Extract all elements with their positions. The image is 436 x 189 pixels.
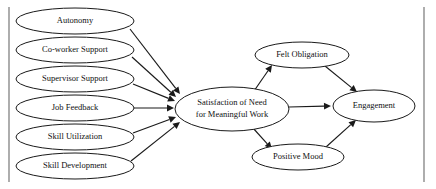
skill-utilization-label: Skill Utilization bbox=[48, 131, 103, 141]
node-coworker-support[interactable]: Co-worker Support bbox=[16, 37, 134, 63]
job-feedback-label: Job Feedback bbox=[52, 102, 99, 112]
skill-development-label: Skill Development bbox=[43, 160, 108, 170]
node-job-feedback[interactable]: Job Feedback bbox=[16, 95, 134, 121]
edge-line bbox=[130, 29, 176, 88]
edge-felt-obligation-to-engagement bbox=[325, 66, 357, 92]
arrow-head-icon bbox=[167, 105, 174, 112]
edge-satisfaction-to-positive-mood bbox=[253, 128, 272, 149]
edge-skill-development-to-satisfaction bbox=[131, 122, 180, 161]
satisfaction-of-need-label-line2: for Meaningful Work bbox=[196, 109, 269, 119]
satisfaction-of-need-label-line1: Satisfaction of Need bbox=[197, 97, 267, 107]
node-skill-development[interactable]: Skill Development bbox=[16, 153, 134, 179]
node-autonomy[interactable]: Autonomy bbox=[16, 8, 134, 34]
supervisor-support-label: Supervisor Support bbox=[42, 73, 109, 83]
arrow-head-icon bbox=[324, 103, 331, 110]
edge-satisfaction-to-engagement bbox=[289, 103, 331, 110]
positive-mood-label: Positive Mood bbox=[273, 151, 324, 161]
edge-line bbox=[133, 119, 169, 133]
edge-line bbox=[326, 125, 351, 147]
node-satisfaction-of-need[interactable]: Satisfaction of Need for Meaningful Work bbox=[175, 87, 289, 131]
node-positive-mood[interactable]: Positive Mood bbox=[252, 144, 344, 170]
antecedent-nodes-layer: AutonomyCo-worker SupportSupervisor Supp… bbox=[16, 8, 134, 179]
edge-satisfaction-to-felt-obligation bbox=[254, 65, 272, 91]
path-model-diagram: AutonomyCo-worker SupportSupervisor Supp… bbox=[0, 0, 436, 189]
edge-line bbox=[325, 66, 352, 88]
coworker-support-label: Co-worker Support bbox=[42, 44, 109, 54]
engagement-label: Engagement bbox=[353, 100, 396, 110]
edge-line bbox=[253, 128, 267, 144]
model-canvas: AutonomyCo-worker SupportSupervisor Supp… bbox=[0, 0, 436, 189]
edge-coworker-to-satisfaction bbox=[132, 57, 176, 97]
arrow-head-icon bbox=[349, 85, 357, 92]
edge-line bbox=[133, 84, 169, 98]
edge-positive-mood-to-engagement bbox=[326, 120, 356, 147]
edge-line bbox=[254, 71, 268, 91]
node-skill-utilization[interactable]: Skill Utilization bbox=[16, 124, 134, 150]
node-engagement[interactable]: Engagement bbox=[333, 90, 415, 122]
autonomy-label: Autonomy bbox=[57, 15, 94, 25]
arrow-head-icon bbox=[172, 122, 180, 129]
edge-supervisor-to-satisfaction bbox=[133, 84, 175, 102]
node-felt-obligation[interactable]: Felt Obligation bbox=[255, 42, 349, 68]
felt-obligation-label: Felt Obligation bbox=[276, 49, 328, 59]
edge-line bbox=[289, 106, 324, 107]
arrow-head-icon bbox=[265, 65, 272, 73]
node-supervisor-support[interactable]: Supervisor Support bbox=[16, 66, 134, 92]
edge-job-feedback-to-satisfaction bbox=[134, 105, 174, 112]
